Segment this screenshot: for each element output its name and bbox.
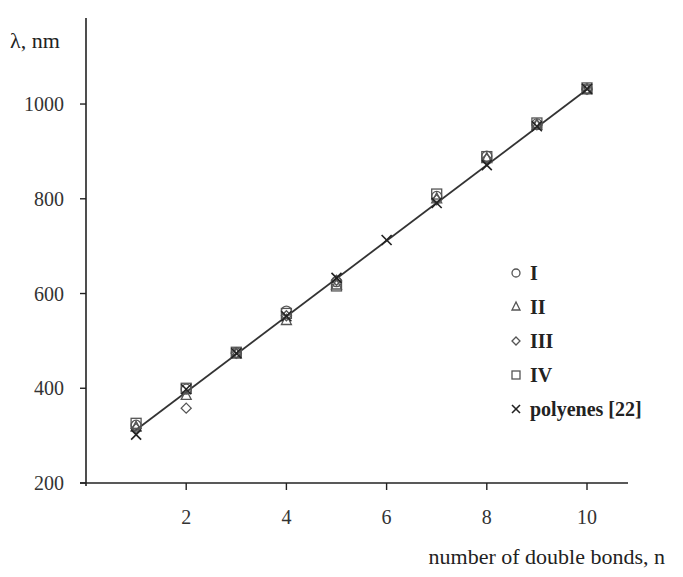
x-tick-label: 2: [181, 506, 191, 528]
y-tick-label: 1000: [24, 93, 64, 115]
x-tick-label: 6: [382, 506, 392, 528]
data-points: [131, 83, 592, 440]
chart: 2004006008001000 246810 λ, nm number of …: [0, 0, 683, 577]
diamond-marker: [512, 337, 520, 345]
y-axis-title: λ, nm: [10, 28, 60, 53]
x-marker: [512, 405, 520, 413]
x-marker: [281, 311, 291, 321]
x-tick-label: 8: [482, 506, 492, 528]
legend-label: I: [530, 262, 538, 284]
y-tick-label: 400: [34, 377, 64, 399]
fit-line: [134, 87, 590, 431]
x-ticks: 246810: [181, 483, 597, 528]
diamond-marker: [181, 403, 191, 413]
y-ticks: 2004006008001000: [24, 93, 86, 494]
legend-label: polyenes [22]: [530, 398, 642, 421]
x-tick-label: 4: [281, 506, 291, 528]
legend-label: IV: [530, 364, 553, 386]
x-marker: [382, 235, 392, 245]
x-axis-title: number of double bonds, n: [429, 544, 665, 569]
y-tick-label: 200: [34, 472, 64, 494]
x-tick-label: 10: [577, 506, 597, 528]
legend-label: II: [530, 296, 546, 318]
y-tick-label: 800: [34, 188, 64, 210]
legend-label: III: [530, 330, 554, 352]
square-marker: [512, 371, 520, 379]
circle-marker: [512, 269, 520, 277]
y-tick-label: 600: [34, 283, 64, 305]
triangle-marker: [512, 302, 520, 310]
legend: IIIIIIIVpolyenes [22]: [512, 262, 642, 421]
